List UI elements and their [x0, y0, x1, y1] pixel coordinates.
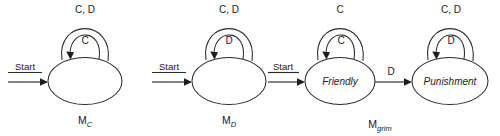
machine-name-mgrim: Mgrim: [368, 118, 391, 133]
machine-mgrim: Start C C Friendly D: [268, 4, 488, 133]
start-label-mgrim: Start: [273, 61, 293, 72]
machine-name-sub-mc: C: [87, 120, 93, 129]
machine-name-base-mc: M: [78, 114, 87, 126]
state-node-md-s0[interactable]: [192, 58, 266, 105]
start-arrow-mc: [8, 73, 48, 86]
machine-name-base-md: M: [222, 114, 231, 126]
machine-md: Start C, D D MD: [152, 4, 266, 129]
transition-friendly-to-punishment[interactable]: [375, 78, 412, 86]
state-label-grim-friendly: Friendly: [322, 76, 359, 87]
start-arrow-mgrim: [268, 73, 305, 86]
machine-name-mc: MC: [78, 114, 93, 129]
self-loop-inner-label-friendly: C: [337, 35, 344, 46]
machine-name-base-mgrim: M: [368, 118, 377, 130]
self-loop-inner-label-punishment: D: [447, 35, 454, 46]
self-loop-outer-label-friendly: C: [336, 4, 343, 15]
machine-name-sub-md: D: [231, 120, 237, 129]
transition-label-friendly-punishment: D: [387, 66, 394, 77]
state-label-grim-punishment: Punishment: [424, 76, 478, 87]
self-loop-inner-label-mc: C: [81, 35, 88, 46]
self-loop-outer-label-md: C, D: [219, 4, 239, 15]
start-label-mc: Start: [15, 61, 35, 72]
state-node-mc-s0[interactable]: [48, 58, 122, 105]
start-label-md: Start: [159, 61, 179, 72]
self-loop-outer-label-punishment: C, D: [441, 4, 461, 15]
self-loop-inner-label-md: D: [225, 35, 232, 46]
machine-name-sub-mgrim: grim: [377, 124, 392, 133]
machine-name-md: MD: [222, 114, 237, 129]
start-arrow-md: [152, 73, 192, 86]
machine-mc: Start C, D C MC: [8, 4, 122, 129]
figure-canvas: Start C, D C MC: [0, 0, 500, 136]
state-machine-figure: Start C, D C MC: [0, 0, 500, 136]
self-loop-outer-label-mc: C, D: [75, 4, 95, 15]
